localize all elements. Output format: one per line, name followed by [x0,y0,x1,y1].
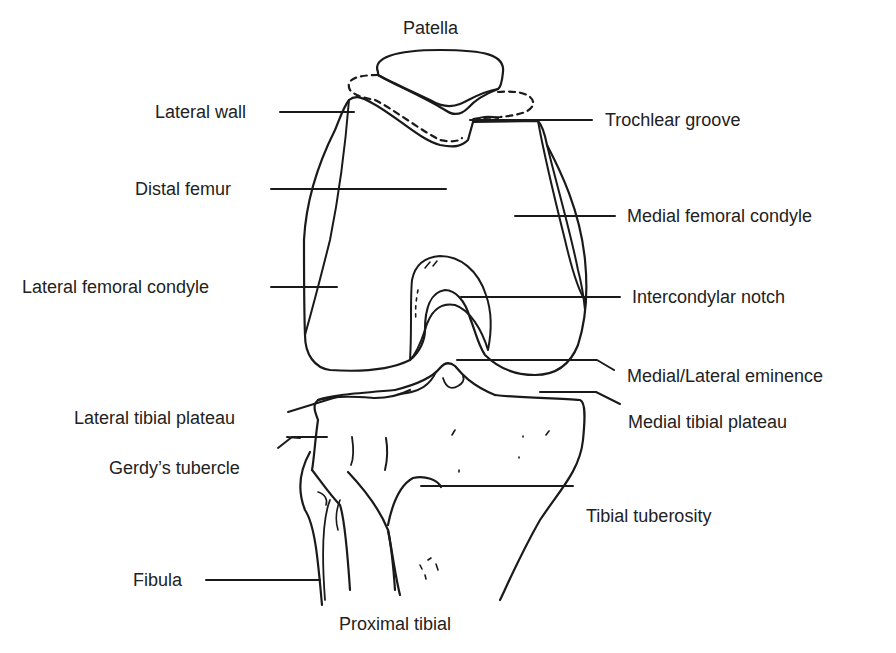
label-trochlear-groove: Trochlear groove [605,110,740,130]
label-fibula: Fibula [133,570,182,590]
label-medial-lateral-eminence: Medial/Lateral eminence [627,366,823,386]
label-lateral-femoral-condyle: Lateral femoral condyle [22,277,209,297]
label-distal-femur: Distal femur [135,179,231,199]
label-patella: Patella [403,18,458,38]
patella-shape [377,50,503,106]
label-tibial-tuberosity: Tibial tuberosity [586,506,711,526]
label-lateral-wall: Lateral wall [155,102,246,122]
knee-anatomy-diagram: Patella Lateral wall Trochlear groove Di… [0,0,896,653]
label-gerdys-tubercle: Gerdy’s tubercle [109,458,240,478]
fibula-shape [300,452,322,605]
label-intercondylar-notch: Intercondylar notch [632,287,785,307]
label-proximal-tibial: Proximal tibial [339,614,451,634]
knee-drawing [0,0,896,653]
label-medial-femoral-condyle: Medial femoral condyle [627,206,812,226]
label-lateral-tibial-plateau: Lateral tibial plateau [74,408,235,428]
label-medial-tibial-plateau: Medial tibial plateau [628,412,787,432]
tibia-outline [318,390,585,600]
